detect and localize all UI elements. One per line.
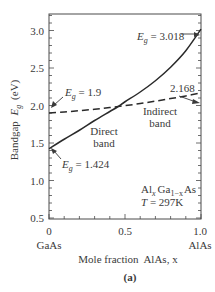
annotation-2168: 2.168 [170,82,195,94]
label-indirect-band: Indirect [143,105,177,117]
arrow-1424 [51,148,61,159]
y-axis-label-sub: g [14,105,23,109]
x-tick-label-0.5: 0.5 [118,225,132,237]
annotation-eg-3018: Eg = 3.018 [136,30,185,45]
x-tick-label-1.0: 1.0 [193,225,207,237]
panel-label: (a) [124,271,137,284]
annotation-eg-19: Eg = 1.9 [64,86,102,101]
label-direct-band-2: band [93,137,115,149]
y-tick-label: 0.5 [30,212,44,224]
y-axis-ticks [49,16,201,219]
annotation-eg-1424: Eg = 1.424 [61,158,110,173]
bandgap-chart: 0.51.01.52.02.53.0 0 0.5 1.0 GaAs AlAs M… [0,0,215,292]
x-tick-label-0: 0 [46,225,52,237]
y-tick-label: 1.0 [30,175,44,187]
label-direct-band: Direct [90,125,117,137]
y-tick-labels: 0.51.01.52.02.53.0 [30,25,44,225]
y-axis-label: Bandgap Eg (eV) [8,79,23,160]
y-tick-label: 2.0 [30,100,44,112]
temperature-label: T = 297K [141,196,183,208]
x-end-label-alas: AlAs [188,239,211,251]
y-tick-label: 1.5 [30,137,44,149]
label-indirect-band-2: band [149,117,171,129]
y-axis-label-prefix: Bandgap [8,121,20,161]
y-tick-label: 2.5 [30,62,44,74]
y-tick-label: 3.0 [30,25,44,37]
arrow-19 [51,97,63,108]
y-axis-label-unit: (eV) [8,79,21,99]
x-axis-label: Mole fraction AlAs, x [78,253,178,265]
x-end-label-gaas: GaAs [36,239,61,251]
arrow-2168 [179,96,200,104]
x-axis-ticks [49,214,201,219]
